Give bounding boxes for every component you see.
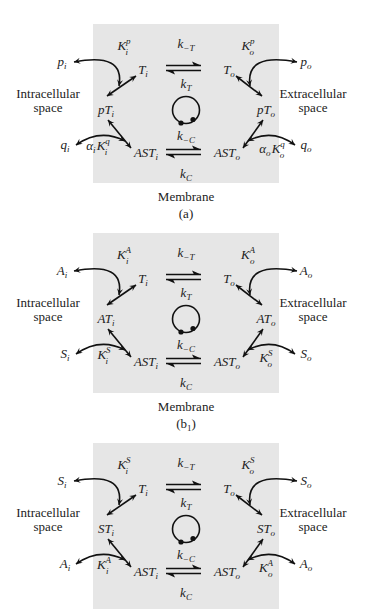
transporter-kinetic-schemes: IntracellularspaceExtracellularspaceTiTo… <box>0 0 365 609</box>
intracellular-label: space <box>34 519 63 534</box>
ligand-top-outer: So <box>301 473 313 490</box>
extracellular-label: space <box>299 519 328 534</box>
ligand-bottom-inner: Ai <box>59 556 71 573</box>
extracellular-label: Extracellular <box>279 505 347 520</box>
intracellular-label: space <box>34 100 63 115</box>
intracellular-label: Intracellular <box>16 505 80 520</box>
extracellular-label: Extracellular <box>279 295 347 310</box>
membrane-caption: Membrane <box>158 189 215 204</box>
state-AST-inner: ASTi <box>133 145 159 162</box>
ligand-top-inner: pi <box>56 54 67 71</box>
panel-label: (a) <box>179 206 193 221</box>
ligand-top-inner: Si <box>57 473 67 490</box>
ligand-bottom-outer: qo <box>301 137 313 154</box>
ligand-bottom-outer: So <box>301 346 313 363</box>
extracellular-label: Extracellular <box>279 86 347 101</box>
ligand-top-outer: po <box>300 54 313 71</box>
intracellular-label: Intracellular <box>16 86 80 101</box>
state-AST-inner: ASTi <box>133 354 159 371</box>
intracellular-label: Intracellular <box>16 295 80 310</box>
state-AST-inner: ASTi <box>133 564 159 581</box>
panel-b1: IntracellularspaceExtracellularspaceTiTo… <box>16 233 347 433</box>
ligand-bottom-inner: Si <box>60 346 70 363</box>
ligand-bottom-outer: Ao <box>299 556 313 573</box>
ligand-bottom-inner: qi <box>60 137 70 154</box>
panel-label: (b1) <box>176 416 196 433</box>
intracellular-label: space <box>34 309 63 324</box>
extracellular-label: space <box>299 309 328 324</box>
ligand-top-outer: Ao <box>299 263 313 280</box>
ligand-top-inner: Ai <box>56 263 68 280</box>
membrane-caption: Membrane <box>158 399 215 414</box>
extracellular-label: space <box>299 100 328 115</box>
panel-a: IntracellularspaceExtracellularspaceTiTo… <box>16 24 347 221</box>
panel-b2: IntracellularspaceExtracellularspaceTiTo… <box>16 443 347 609</box>
